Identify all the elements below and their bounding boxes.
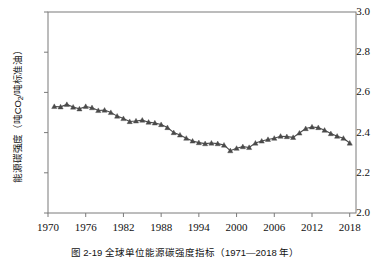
y-axis-label-main: 能源碳强度（吨CO [12, 100, 23, 182]
y-axis-tick-label: 2.6 [329, 86, 370, 97]
series-marker [115, 114, 120, 119]
x-axis-tick-label: 2018 [325, 222, 375, 233]
y-axis-tick-label: 2.0 [329, 207, 370, 218]
y-axis-tick-label: 2.8 [329, 46, 370, 57]
y-axis-tick-label: 2.4 [329, 127, 370, 138]
y-axis-tick-label: 3.0 [329, 6, 370, 17]
y-axis-label: 能源碳强度（吨CO2/吨标准油） [10, 21, 24, 207]
series-marker [83, 104, 88, 109]
y-axis-label-tail: /吨标准油） [12, 45, 23, 96]
plot-frame [48, 12, 356, 213]
series-marker [64, 102, 69, 107]
series-marker [184, 136, 189, 141]
y-axis-label-subscript: 2 [17, 97, 24, 101]
figure-caption: 图 2-19 全球单位能源碳强度指标（1971—2018 年） [0, 245, 370, 259]
y-axis-tick-label: 2.2 [329, 167, 370, 178]
